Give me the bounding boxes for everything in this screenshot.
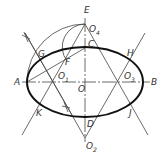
chord-ac	[27, 48, 85, 82]
label-d: D	[87, 120, 94, 129]
ellipse-construction-diagram: E O4 C G F H A O1 O3 B O K J D O2	[0, 0, 167, 163]
diagram-canvas	[0, 0, 167, 163]
label-a: A	[14, 78, 20, 87]
label-j: J	[129, 109, 132, 118]
label-o3: O3	[124, 72, 135, 83]
cross-mark-top	[22, 32, 30, 42]
label-o2: O2	[86, 142, 97, 153]
label-c: C	[88, 40, 94, 49]
label-o: O	[78, 85, 85, 94]
line-o2-o1	[25, 33, 85, 138]
label-k: K	[36, 109, 42, 118]
label-h: H	[127, 49, 134, 58]
label-o1: O1	[58, 72, 69, 83]
label-o4: O4	[89, 25, 100, 36]
label-e: E	[84, 6, 90, 15]
label-b: B	[151, 78, 157, 87]
label-g: G	[38, 50, 45, 59]
line-o4-o3	[85, 24, 148, 135]
label-f: F	[65, 58, 70, 67]
cross-mark-bottom	[62, 102, 70, 112]
